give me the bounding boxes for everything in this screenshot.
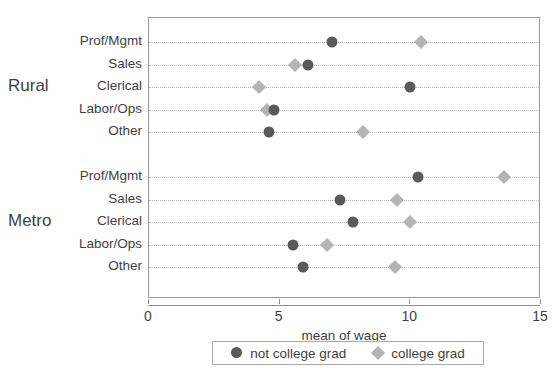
- data-point-college-grad: [320, 238, 334, 252]
- data-point-not-college-grad: [264, 127, 275, 138]
- x-axis-tick: [148, 299, 149, 304]
- data-point-not-college-grad: [269, 104, 280, 115]
- gridline: [149, 267, 539, 269]
- category-tick-label: Prof/Mgmt: [0, 34, 148, 48]
- x-axis-tick: [409, 299, 410, 304]
- plot-area: [148, 17, 540, 298]
- data-point-not-college-grad: [287, 239, 298, 250]
- x-axis-tick: [540, 299, 541, 304]
- gridline: [149, 65, 539, 67]
- legend-diamond-icon: [372, 347, 384, 359]
- x-axis-tick-label: 15: [532, 308, 548, 324]
- x-axis-tick-label: 5: [275, 308, 283, 324]
- data-point-not-college-grad: [326, 37, 337, 48]
- gridline: [149, 110, 539, 112]
- category-tick-label: Sales: [0, 192, 148, 206]
- data-point-not-college-grad: [334, 194, 345, 205]
- legend-circle-icon: [231, 347, 243, 359]
- data-point-college-grad: [390, 193, 404, 207]
- data-point-not-college-grad: [413, 172, 424, 183]
- legend-entry: college grad: [372, 346, 465, 361]
- x-axis-tick-label: 10: [402, 308, 418, 324]
- data-point-not-college-grad: [298, 262, 309, 273]
- legend-label: college grad: [391, 346, 465, 361]
- gridline: [149, 87, 539, 89]
- gridline: [149, 222, 539, 224]
- group-label-rural: Rural: [8, 76, 86, 96]
- category-tick-label: Other: [0, 259, 148, 273]
- gridline: [149, 132, 539, 134]
- category-tick-label: Prof/Mgmt: [0, 169, 148, 183]
- chart-legend: not college gradcollege grad: [212, 341, 484, 365]
- gridline: [149, 177, 539, 179]
- data-point-college-grad: [356, 125, 370, 139]
- category-tick-label: Other: [0, 124, 148, 138]
- category-tick-label: Labor/Ops: [0, 102, 148, 116]
- data-point-not-college-grad: [347, 217, 358, 228]
- data-point-college-grad: [414, 35, 428, 49]
- gridline: [149, 245, 539, 247]
- category-tick-label: Labor/Ops: [0, 237, 148, 251]
- data-point-not-college-grad: [405, 82, 416, 93]
- x-axis-tick-label: 0: [144, 308, 152, 324]
- category-label-column: Prof/MgmtSalesClericalLabor/OpsOtherProf…: [0, 0, 148, 373]
- x-axis-line: [148, 305, 540, 306]
- category-tick-label: Sales: [0, 57, 148, 71]
- dot-plot-chart: Prof/MgmtSalesClericalLabor/OpsOtherProf…: [0, 0, 559, 373]
- x-axis-tick: [279, 299, 280, 304]
- data-point-college-grad: [252, 80, 266, 94]
- data-point-college-grad: [388, 260, 402, 274]
- data-point-college-grad: [497, 170, 511, 184]
- legend-entry: not college grad: [231, 346, 346, 361]
- data-point-not-college-grad: [303, 59, 314, 70]
- legend-label: not college grad: [250, 346, 346, 361]
- group-label-metro: Metro: [8, 211, 86, 231]
- data-point-college-grad: [403, 215, 417, 229]
- gridline: [149, 42, 539, 44]
- data-point-college-grad: [288, 58, 302, 72]
